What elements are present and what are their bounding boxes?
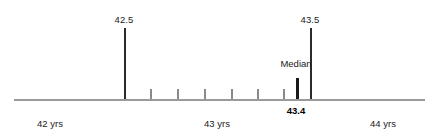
reference-line-42-5 [124, 28, 126, 100]
reference-label-42-5: 42.5 [115, 14, 134, 25]
median-tick [296, 78, 299, 100]
axis-tick-label-44: 44 yrs [370, 118, 396, 129]
axis-tick-label-43: 43 yrs [204, 118, 230, 129]
tick-layer [0, 0, 435, 100]
number-line-axis [14, 99, 425, 101]
median-value-label: 43.4 [287, 105, 306, 116]
number-line-figure: 42.5 43.5 Median 43.4 42 yrs 43 yrs 44 y… [0, 0, 435, 136]
reference-label-43-5: 43.5 [301, 14, 320, 25]
axis-tick-label-42: 42 yrs [37, 118, 63, 129]
median-annotation-label: Median [280, 58, 311, 69]
